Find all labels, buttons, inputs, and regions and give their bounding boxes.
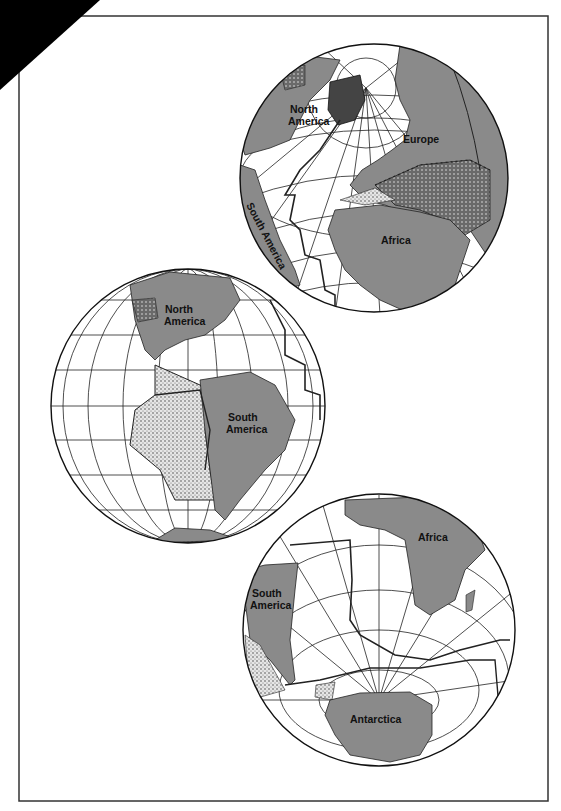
globe-south-atlantic: Africa South America Antarctica — [229, 494, 529, 785]
label-north-america: North — [165, 303, 193, 315]
label-africa: Africa — [381, 234, 411, 246]
label-south-america-2: America — [250, 599, 292, 611]
label-north-america: North — [290, 103, 318, 115]
label-south-america-2: America — [226, 423, 268, 435]
label-south-america: South — [228, 411, 258, 423]
label-antarctica: Antarctica — [350, 713, 402, 725]
label-north-america-2: America — [164, 315, 206, 327]
label-north-america-2: America — [288, 115, 330, 127]
label-africa: Africa — [418, 531, 448, 543]
globe-north-atlantic: North America Europe Africa South Americ… — [240, 28, 510, 318]
label-europe: Europe — [403, 133, 439, 145]
corner-tab — [0, 0, 100, 90]
figure-canvas: North America Europe Africa South Americ… — [0, 0, 561, 811]
globe-americas: North America South America — [50, 269, 330, 543]
label-south-america: South — [252, 587, 282, 599]
